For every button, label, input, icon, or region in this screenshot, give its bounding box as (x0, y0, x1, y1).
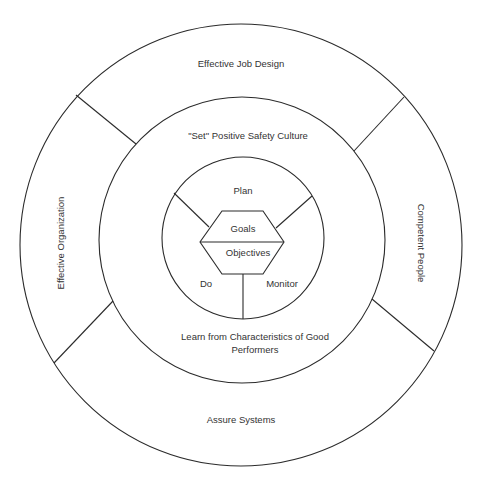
inner-divider-top-left (174, 193, 209, 227)
label-set-positive-safety-culture: "Set" Positive Safety Culture (188, 130, 308, 141)
outer-circle (20, 24, 462, 466)
label-monitor: Monitor (266, 278, 298, 289)
label-objectives: Objectives (226, 247, 271, 258)
label-goals: Goals (231, 223, 256, 234)
outer-divider-bottom-right (372, 299, 434, 351)
label-learn-from-characteristics-line2: Performers (232, 344, 279, 355)
outer-divider-top-left (76, 95, 136, 144)
inner-divider-top-right (276, 196, 312, 228)
label-assure-systems: Assure Systems (207, 414, 276, 425)
label-learn-from-characteristics-line1: Learn from Characteristics of Good (181, 331, 329, 342)
outer-divider-bottom-left (54, 301, 113, 363)
outer-divider-top-right (354, 97, 404, 151)
label-competent-people: Competent People (416, 204, 427, 283)
label-effective-job-design: Effective Job Design (198, 58, 284, 69)
safety-culture-diagram: Effective Job Design Assure Systems Effe… (0, 0, 478, 478)
label-effective-organization: Effective Organization (55, 197, 66, 290)
label-do: Do (200, 278, 212, 289)
label-plan: Plan (233, 185, 252, 196)
